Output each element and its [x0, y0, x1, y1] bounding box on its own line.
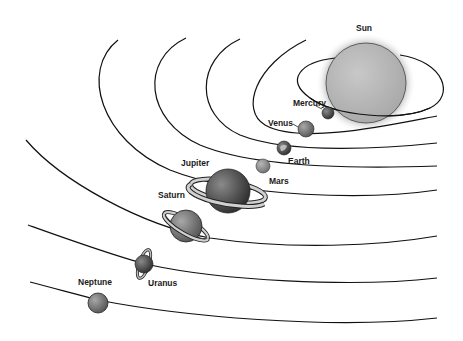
saturn-label: Saturn	[158, 190, 185, 200]
sun: Sun	[298, 23, 444, 133]
sun-label: Sun	[356, 23, 372, 33]
mars-label: Mars	[269, 176, 289, 186]
uranus-orbit	[28, 225, 437, 282]
neptune: Neptune	[78, 277, 112, 313]
jupiter: Jupiter	[181, 158, 267, 213]
venus-leader	[293, 124, 298, 127]
venus: Venus	[268, 118, 314, 137]
uranus-label: Uranus	[148, 278, 178, 288]
neptune-label: Neptune	[78, 277, 112, 287]
mercury-label: Mercury	[293, 98, 326, 108]
mars-body	[256, 159, 270, 173]
neptune-body	[88, 293, 108, 313]
mercury-body	[322, 107, 334, 119]
uranus-body	[135, 255, 153, 273]
solar-system-diagram: Sun Mercury Venus Earth Mars	[0, 0, 463, 341]
earth-label: Earth	[288, 156, 310, 166]
venus-body	[298, 121, 314, 137]
sun-body	[326, 43, 406, 123]
jupiter-label: Jupiter	[181, 158, 210, 168]
venus-label: Venus	[268, 118, 293, 128]
uranus: Uranus	[135, 248, 178, 288]
